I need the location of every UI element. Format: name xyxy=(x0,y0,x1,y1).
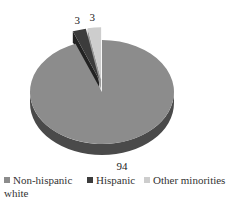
pie-slice-non-hispanic-white xyxy=(30,40,174,144)
data-label-non-hispanic-white: 94 xyxy=(117,160,129,172)
legend-item-other-minorities: Other minorities xyxy=(144,174,225,187)
legend-item-hispanic: Hispanic xyxy=(87,174,135,187)
data-label-hispanic: 3 xyxy=(74,14,80,26)
legend-swatch-hispanic xyxy=(87,177,93,183)
legend-label-non-hispanic-white: Non-hispanic xyxy=(13,174,72,186)
legend-label-hispanic: Hispanic xyxy=(96,174,135,186)
data-label-other-minorities: 3 xyxy=(90,11,96,23)
legend-label-non-hispanic-white-line2: white xyxy=(4,187,28,200)
legend-label-other-minorities: Other minorities xyxy=(153,174,225,186)
legend-swatch-other-minorities xyxy=(144,177,150,183)
legend-swatch-non-hispanic-white xyxy=(4,177,10,183)
legend-item-non-hispanic-white: Non-hispanic xyxy=(4,174,72,187)
